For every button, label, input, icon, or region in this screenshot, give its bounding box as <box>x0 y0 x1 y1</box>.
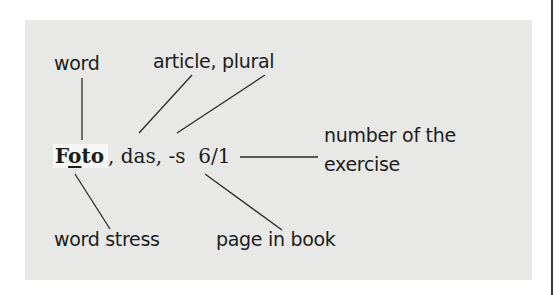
headword: Foto <box>53 144 108 168</box>
label-article-plural: article, plural <box>153 50 274 72</box>
stress-connector <box>75 174 110 229</box>
label-number-line1: number of the <box>324 124 456 146</box>
label-word: word <box>54 52 100 74</box>
plural-connector <box>177 75 265 133</box>
stressed-vowel: o <box>68 144 81 168</box>
label-word-stress: word stress <box>54 228 160 250</box>
page-connector <box>205 174 282 230</box>
label-page-in-book: page in book <box>216 228 336 250</box>
label-number-line2: exercise <box>324 153 400 175</box>
headword-prefix: F <box>55 144 68 168</box>
entry-rest: , das, -s 6/1 <box>108 144 230 168</box>
headword-suffix: to <box>81 144 104 168</box>
article-connector <box>139 75 192 133</box>
dictionary-entry: Foto, das, -s 6/1 <box>53 140 230 172</box>
